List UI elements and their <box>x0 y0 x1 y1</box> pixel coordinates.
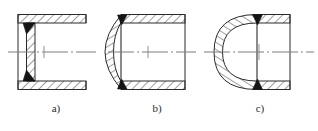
panel-a-top-shell-wall <box>18 15 86 24</box>
figure-sheet: a) b) c) <box>0 0 318 131</box>
panel-a-flat-plate-closure <box>8 15 96 90</box>
panel-b-top-shell-wall <box>121 15 185 24</box>
panel-b-bottom-shell-wall <box>121 81 185 90</box>
engineering-drawing-svg <box>0 0 318 131</box>
panel-c-hemispherical-end <box>204 15 314 90</box>
panel-a-bottom-shell-wall <box>18 81 86 90</box>
panel-b-dished-convex-end <box>105 15 196 90</box>
